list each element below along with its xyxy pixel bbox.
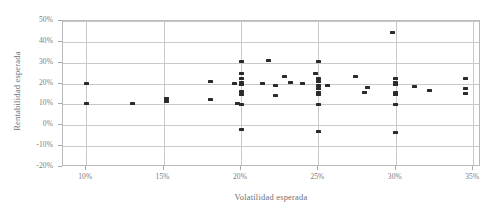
data-point <box>273 84 278 87</box>
y-axis-tick-label: 30% <box>0 58 53 66</box>
data-point <box>164 100 169 103</box>
data-point <box>316 80 321 83</box>
data-point <box>288 81 293 84</box>
data-point <box>84 102 89 105</box>
y-axis-tick-mark <box>58 145 62 146</box>
data-point <box>300 82 305 85</box>
data-point <box>393 131 398 134</box>
data-point <box>316 77 321 80</box>
gridline-vertical <box>164 21 165 165</box>
x-axis-tick-mark <box>395 166 396 170</box>
x-axis-tick-mark <box>472 166 473 170</box>
data-point <box>427 89 432 92</box>
data-point <box>390 31 395 34</box>
data-point <box>393 103 398 106</box>
gridline-vertical <box>86 21 87 165</box>
data-point <box>365 86 370 89</box>
data-point <box>239 60 244 63</box>
data-point <box>266 59 271 62</box>
plot-area <box>62 20 480 166</box>
data-point <box>282 75 287 78</box>
y-axis-tick-mark <box>58 20 62 21</box>
y-axis-tick-mark <box>58 103 62 104</box>
data-point <box>463 92 468 95</box>
scatter-chart-figure: Rentabilidad esperada Volatilidad espera… <box>0 0 504 216</box>
y-axis-title: Rentabilidad esperada <box>12 36 22 146</box>
data-point <box>463 87 468 90</box>
gridline-horizontal <box>63 146 479 147</box>
x-axis-title: Volatilidad esperada <box>62 192 480 202</box>
y-axis-tick-label: 50% <box>0 16 53 24</box>
y-axis-tick-label: 20% <box>0 79 53 87</box>
data-point <box>84 82 89 85</box>
y-axis-tick-label: -10% <box>0 141 53 149</box>
x-axis-tick-label: 10% <box>65 173 105 181</box>
data-point <box>362 91 367 94</box>
x-axis-tick-label: 35% <box>452 173 492 181</box>
gridline-horizontal <box>63 21 479 22</box>
y-axis-tick-mark <box>58 62 62 63</box>
data-point <box>130 102 135 105</box>
x-axis-tick-label: 30% <box>375 173 415 181</box>
data-point <box>239 103 244 106</box>
data-point <box>316 87 321 90</box>
x-axis-tick-label: 25% <box>297 173 337 181</box>
data-point <box>393 83 398 86</box>
x-axis-tick-label: 15% <box>143 173 183 181</box>
x-axis-tick-mark <box>240 166 241 170</box>
gridline-horizontal <box>63 125 479 126</box>
data-point <box>353 75 358 78</box>
gridline-horizontal <box>63 63 479 64</box>
data-point <box>316 130 321 133</box>
gridline-horizontal <box>63 42 479 43</box>
y-axis-tick-mark <box>58 83 62 84</box>
data-point <box>239 83 244 86</box>
data-point <box>239 77 244 80</box>
y-axis-tick-mark <box>58 41 62 42</box>
gridline-vertical <box>473 21 474 165</box>
data-point <box>208 80 213 83</box>
data-point <box>239 93 244 96</box>
x-axis-tick-mark <box>317 166 318 170</box>
data-point <box>316 93 321 96</box>
data-point <box>412 85 417 88</box>
data-point <box>463 77 468 80</box>
data-point <box>208 98 213 101</box>
data-point <box>393 77 398 80</box>
x-axis-tick-label: 20% <box>220 173 260 181</box>
y-axis-tick-label: 10% <box>0 99 53 107</box>
data-point <box>239 72 244 75</box>
data-point <box>260 82 265 85</box>
data-point <box>239 128 244 131</box>
data-point <box>273 94 278 97</box>
data-point <box>316 60 321 63</box>
data-point <box>316 103 321 106</box>
data-point <box>393 93 398 96</box>
x-axis-tick-mark <box>163 166 164 170</box>
y-axis-tick-mark <box>58 166 62 167</box>
data-point <box>313 72 318 75</box>
data-point <box>232 82 237 85</box>
y-axis-tick-mark <box>58 124 62 125</box>
y-axis-tick-label: 0% <box>0 120 53 128</box>
y-axis-tick-label: 40% <box>0 37 53 45</box>
data-point <box>325 84 330 87</box>
gridline-horizontal <box>63 104 479 105</box>
y-axis-tick-label: -20% <box>0 162 53 170</box>
x-axis-tick-mark <box>85 166 86 170</box>
